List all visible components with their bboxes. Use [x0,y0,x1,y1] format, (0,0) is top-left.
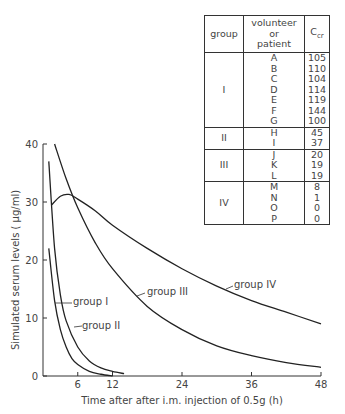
curve-label: group II [82,320,120,331]
volunteer-cell: HI [244,127,305,149]
group-cell: III [205,149,244,182]
patient-table: group volunteer or patient Ccr IABCDEFG1… [204,15,330,225]
table-row: IIHI4537 [205,127,330,149]
ccr-cell: 4537 [305,127,330,149]
header-volunteer: volunteer or patient [244,16,305,53]
y-tick-label: 10 [25,313,38,324]
x-axis-label: Time after after i.m. injection of 0.5g … [80,395,283,406]
header-ccr: Ccr [305,16,330,53]
ccr-cell: 8100 [305,182,330,225]
group-cell: IV [205,182,244,225]
curve-group-ii [49,161,124,373]
x-tick-label: 48 [315,379,328,390]
curve-label: group I [73,296,108,307]
ccr-cell: 201919 [305,149,330,182]
x-tick-label: 36 [245,379,258,390]
table-row: IVMNOP8100 [205,182,330,225]
group-cell: II [205,127,244,149]
y-tick-label: 20 [25,255,38,266]
header-group: group [205,16,244,53]
x-tick-label: 6 [75,379,81,390]
y-axis-label: Simulated serum levels ( μg/ml) [10,190,21,350]
volunteer-cell: JKL [244,149,305,182]
curve-label: group IV [234,279,276,290]
group-cell: I [205,53,244,128]
x-tick-label: 24 [176,379,189,390]
table-row: IABCDEFG105110104114119144100 [205,53,330,128]
volunteer-cell: ABCDEFG [244,53,305,128]
curve-group-i [49,248,113,376]
curve-labels: group Igroup IIgroup IIIgroup IV [55,279,276,331]
y-tick-label: 30 [25,197,38,208]
curve-label: group III [147,286,188,297]
ccr-cell: 105110104114119144100 [305,53,330,128]
x-tick-label: 12 [106,379,119,390]
y-tick-label: 0 [32,371,38,382]
y-tick-label: 40 [25,139,38,150]
table-row: IIIJKL201919 [205,149,330,182]
volunteer-cell: MNOP [244,182,305,225]
